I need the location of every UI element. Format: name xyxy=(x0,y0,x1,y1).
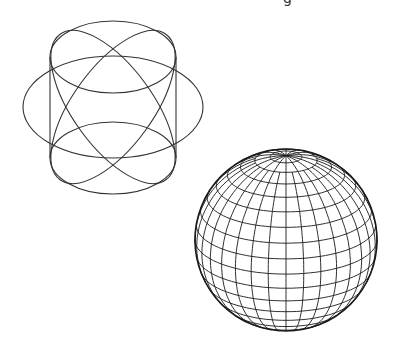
top-ellipse xyxy=(50,21,176,93)
sphere-mesh-lines xyxy=(195,149,377,331)
cropped-caption-text: g xyxy=(283,0,292,5)
drawing-canvas: g xyxy=(0,0,397,341)
cylinder-sphere-wireframe xyxy=(23,11,203,204)
tessellated-sphere xyxy=(195,149,377,331)
meridian-ellipse-right-tilt xyxy=(28,11,199,204)
meridian-ellipse-left-tilt xyxy=(28,11,199,204)
